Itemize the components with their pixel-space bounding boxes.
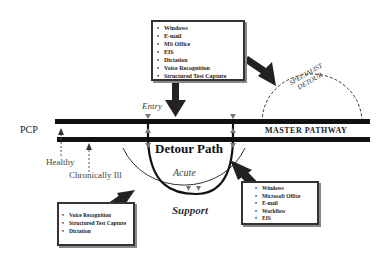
list-item: MS Office [157, 40, 239, 48]
detour-path-curve [148, 124, 233, 194]
list-item: Windows [255, 185, 313, 193]
list-item: Workflow [255, 208, 313, 216]
list-item: E-mail [157, 32, 239, 40]
master-pathway-top-line [55, 119, 370, 124]
pcp-label: PCP [20, 124, 38, 135]
detour-path-label: Detour Path [155, 141, 223, 157]
bottom-left-tools-list: Voice Recognition Structured Test Captur… [62, 211, 130, 235]
top-box-down-arrow-icon [165, 80, 186, 117]
list-item: Structured Test Capture [62, 219, 130, 227]
list-item: Structured Test Capture [157, 72, 239, 80]
top-tools-box: Windows E-mail MS Office EIS Dictation V… [151, 20, 245, 81]
list-item: Voice Recognition [62, 211, 130, 219]
list-item: Microsoft Office [255, 193, 313, 201]
list-item: EIS [255, 215, 313, 223]
master-pathway-label: MASTER PATHWAY [265, 126, 347, 135]
bottom-right-tools-box: Windows Microsoft Office E-mail Workflow… [241, 181, 319, 225]
list-item: E-mail [255, 200, 313, 208]
list-item: Voice Recognition [157, 64, 239, 72]
list-item: Dictation [157, 56, 239, 64]
entry-label: Entry [142, 101, 162, 111]
list-item: EIS [157, 48, 239, 56]
acute-label: Acute [173, 167, 196, 178]
healthy-label: Healthy [46, 157, 75, 167]
healthy-up-arrow-icon [58, 128, 64, 135]
chronically-ill-up-arrow-icon [86, 143, 92, 150]
top-tools-list: Windows E-mail MS Office EIS Dictation V… [157, 24, 239, 80]
bottom-right-tools-list: Windows Microsoft Office E-mail Workflow… [255, 185, 313, 223]
bottom-left-tools-box: Voice Recognition Structured Test Captur… [57, 202, 135, 246]
chronically-ill-label: Chronically Ill [69, 170, 122, 180]
top-box-specialist-arrow-icon [244, 56, 276, 86]
support-label: Support [172, 204, 208, 216]
list-item: Windows [157, 24, 239, 32]
list-item: Dictation [62, 227, 130, 235]
